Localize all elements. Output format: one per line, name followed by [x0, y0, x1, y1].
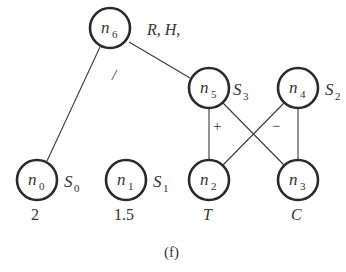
n0-side-label: S 0 [64, 172, 80, 194]
n6-side-label: R, H, [146, 21, 180, 38]
node-n6: n 6 [90, 8, 130, 48]
svg-text:n: n [200, 78, 209, 97]
svg-text:5: 5 [211, 88, 217, 100]
edge-label-minus: − [272, 118, 280, 134]
svg-text:n: n [101, 18, 110, 37]
n4-side-label: S 2 [325, 80, 341, 102]
svg-text:3: 3 [243, 90, 249, 102]
edge-label-slash: / [111, 67, 118, 83]
edge-n6-n0 [47, 47, 100, 161]
svg-text:S: S [64, 172, 73, 191]
node-n5: n 5 [189, 68, 229, 108]
svg-text:6: 6 [112, 28, 118, 40]
svg-text:0: 0 [74, 182, 80, 194]
svg-text:3: 3 [300, 180, 306, 192]
n2-type-label: T [203, 206, 213, 223]
svg-text:n: n [289, 78, 298, 97]
svg-text:n: n [28, 170, 37, 189]
svg-text:4: 4 [300, 88, 306, 100]
n1-side-label: S 1 [153, 172, 169, 194]
node-n2: n 2 [189, 160, 229, 200]
node-n1: n 1 [106, 160, 146, 200]
n5-side-label: S 3 [233, 80, 249, 102]
n3-type-label: C [291, 206, 302, 223]
node-n4: n 4 [278, 68, 318, 108]
svg-text:S: S [325, 80, 334, 99]
figure-caption: (f) [164, 244, 179, 261]
edge-label-plus: + [213, 118, 221, 134]
tree-diagram: / + − n 6 R, H, n 5 S 3 n 4 S 2 n 0 S 0 … [0, 0, 346, 272]
svg-text:S: S [233, 80, 242, 99]
n1-value: 1.5 [114, 206, 134, 223]
svg-text:n: n [289, 170, 298, 189]
svg-text:1: 1 [163, 182, 169, 194]
node-n0: n 0 [17, 160, 57, 200]
svg-text:2: 2 [211, 180, 217, 192]
svg-text:0: 0 [39, 180, 45, 192]
svg-text:n: n [200, 170, 209, 189]
svg-text:1: 1 [128, 180, 134, 192]
svg-text:2: 2 [335, 90, 341, 102]
n0-value: 2 [31, 206, 39, 223]
svg-text:S: S [153, 172, 162, 191]
edge-n6-n5 [129, 42, 190, 78]
svg-text:n: n [117, 170, 126, 189]
node-n3: n 3 [278, 160, 318, 200]
